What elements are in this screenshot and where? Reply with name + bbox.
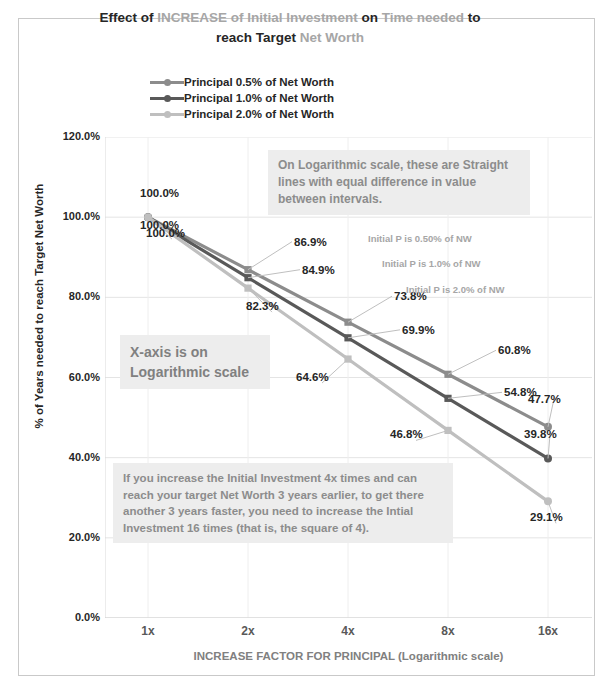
leader-line-0-1 <box>248 242 292 270</box>
leader-line-0-2 <box>348 296 392 322</box>
title-part-6: to <box>468 10 481 25</box>
legend-label-1: Principal 1.0% of Net Worth <box>184 92 334 104</box>
title-part-3: of Initial Investment <box>227 10 361 25</box>
legend-label-2: Principal 2.0% of Net Worth <box>184 108 334 120</box>
legend-item-1[interactable]: Principal 1.0% of Net Worth <box>150 90 450 106</box>
note-explanation: If you increase the Initial Investment 4… <box>113 463 453 543</box>
legend-marker-icon-1 <box>150 92 184 104</box>
x-axis-title: INCREASE FACTOR FOR PRINCIPAL (Logarithm… <box>105 650 592 662</box>
series-annotation-2: Initial P is 2.0% of NW <box>406 284 505 295</box>
data-point-0-1[interactable] <box>244 266 251 273</box>
data-label-2-2: 64.6% <box>296 371 329 383</box>
data-label-0-1: 86.9% <box>294 236 327 248</box>
chart-legend: Principal 0.5% of Net Worth Principal 1.… <box>150 74 450 122</box>
data-label-1-3: 54.8% <box>504 386 537 398</box>
x-tick-label-2: 4x <box>318 624 378 638</box>
y-tick-label-1: 20.0% <box>40 531 100 543</box>
page-title: Effect of INCREASE of Initial Investment… <box>30 8 550 48</box>
y-tick-label-3: 60.0% <box>40 371 100 383</box>
x-tick-label-3: 8x <box>418 624 478 638</box>
legend-item-2[interactable]: Principal 2.0% of Net Worth <box>150 106 450 122</box>
leader-line-0-3 <box>448 350 496 374</box>
title-part-7: reach Target <box>216 30 300 45</box>
y-tick-label-0: 0.0% <box>40 611 100 623</box>
legend-marker-icon-2 <box>150 108 184 120</box>
data-label-0-3: 60.8% <box>498 344 531 356</box>
data-label-2-0: 100.0% <box>146 227 185 239</box>
x-tick-label-4: 16x <box>518 624 578 638</box>
legend-label-0: Principal 0.5% of Net Worth <box>184 76 334 88</box>
series-annotation-1: Initial P is 1.0% of NW <box>382 258 481 269</box>
title-part-1: Effect of <box>100 10 158 25</box>
x-tick-label-1: 2x <box>218 624 278 638</box>
title-part-2: INCREASE <box>157 10 227 25</box>
legend-item-0[interactable]: Principal 0.5% of Net Worth <box>150 74 450 90</box>
y-tick-label-5: 100.0% <box>40 210 100 222</box>
y-tick-label-4: 80.0% <box>40 290 100 302</box>
x-axis-tick-labels: 1x2x4x8x16x <box>105 624 592 644</box>
legend-marker-icon-0 <box>150 76 184 88</box>
data-label-1-4: 39.8% <box>524 428 557 440</box>
data-label-2-3: 46.8% <box>390 428 423 440</box>
data-label-1-1: 84.9% <box>302 264 335 276</box>
y-tick-label-6: 120.0% <box>40 130 100 142</box>
note-x-axis-log: X-axis is on Logarithmic scale <box>120 335 270 389</box>
y-axis-tick-labels: 0.0%20.0%40.0%60.0%80.0%100.0%120.0% <box>38 137 100 618</box>
data-label-0-0: 100.0% <box>140 187 179 199</box>
data-label-1-2: 69.9% <box>402 324 435 336</box>
note-logarithmic-scale: On Logarithmic scale, these are Straight… <box>268 150 530 215</box>
title-part-5: Time needed <box>382 10 468 25</box>
x-tick-label-0: 1x <box>118 624 178 638</box>
data-label-2-1: 82.3% <box>246 300 279 312</box>
data-label-2-4: 29.1% <box>530 511 563 523</box>
y-tick-label-2: 40.0% <box>40 451 100 463</box>
title-part-4: on <box>361 10 381 25</box>
series-annotation-0: Initial P is 0.50% of NW <box>368 233 472 244</box>
title-part-8: Net Worth <box>300 30 364 45</box>
